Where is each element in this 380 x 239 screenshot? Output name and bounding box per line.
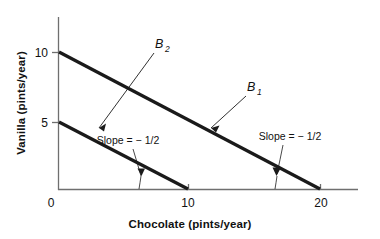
y-tick-label-5: 5 [41,116,48,130]
x-tick-label-20: 20 [314,196,328,210]
curve-label-b1: B [247,80,255,94]
y-axis-title: Vanilla (pints/year) [15,51,27,155]
x-tick-label-0: 0 [48,196,55,210]
curve-label-b2-subscript: 2 [164,44,170,54]
x-tick-label-10: 10 [181,196,195,210]
curve-label-b1-subscript: 1 [257,87,262,97]
curve-label-b2: B [155,37,163,51]
x-axis-title: Chocolate (pints/year) [129,218,252,230]
slope-label-right: Slope = − 1/2 [259,130,322,142]
y-tick-label-10: 10 [35,46,49,60]
slope-label-left: Slope = − 1/2 [97,134,160,146]
